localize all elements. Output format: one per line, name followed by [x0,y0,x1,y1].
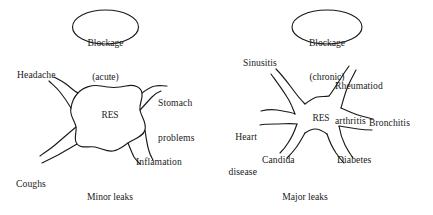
leak-label-bronchitis: Bronchitis [369,117,410,129]
caption-major-leaks: Major leaks [250,191,360,202]
leak-line-coughs-lower [42,144,77,163]
diagram-canvas: Blockage (acute) RES Headache Stomach pr… [0,0,433,214]
panel-acute-blockage: Blockage (acute) RES Headache Stomach pr… [0,0,216,214]
core-edge-bottom [305,129,327,134]
panel-chronic-blockage: Blockage (chronic) RES Sinusitis Rheumat… [217,0,433,214]
leak-label-diabetes: Diabetes [337,154,371,166]
leak-label-heart-disease: Heart disease [208,108,257,200]
leak-label-inflamation: Inflamation [136,156,182,168]
leak-label-heart-line1: Heart [208,131,257,143]
blockage-acute-label: Blockage (acute) [65,14,146,105]
leak-line-heart-lower [260,124,297,125]
leak-label-sinusitis: Sinusitis [243,57,277,69]
leak-label-coughs-colds: Coughs colds [16,155,46,214]
leak-label-stomach-line2: problems [158,132,195,144]
leak-label-stomach-problems: Stomach problems [158,74,195,166]
blockage-chronic-line1: Blockage [285,37,369,48]
leak-label-rheumatiod-arthritis: Rheumatiod arthritis [335,57,383,149]
leak-line-heart-upper [261,110,295,114]
blockage-acute-line2: (acute) [65,71,146,82]
caption-minor-leaks: Minor leaks [55,191,165,202]
leak-label-heart-line2: disease [208,166,257,178]
leak-label-coughs-line2: colds [16,213,46,215]
leak-line-coughs-upper [40,127,76,156]
res-core-label-acute: RES [86,110,134,120]
leak-label-rheumatiod-line1: Rheumatiod [335,80,383,92]
blockage-acute-line1: Blockage [65,37,146,48]
leak-label-stomach-line1: Stomach [158,97,195,109]
leak-label-coughs-line1: Coughs [16,178,46,190]
leak-label-headache: Headache [17,69,56,81]
leak-line-candida-left [280,124,297,153]
leak-label-candida: Candida [262,154,295,166]
